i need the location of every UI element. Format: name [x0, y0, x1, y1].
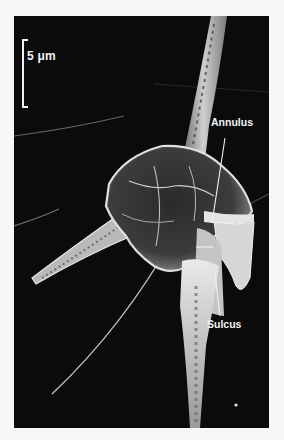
specimen-illustration: [14, 16, 269, 428]
sulcus-label: Sulcus: [207, 318, 241, 330]
page-margin: [0, 428, 284, 440]
scale-bar-label: 5 μm: [27, 49, 56, 63]
antapical-horn: [180, 259, 219, 428]
micrograph-frame: [14, 16, 269, 428]
thread: [14, 116, 124, 136]
annulus-label: Annulus: [211, 116, 253, 128]
thread: [14, 209, 59, 226]
